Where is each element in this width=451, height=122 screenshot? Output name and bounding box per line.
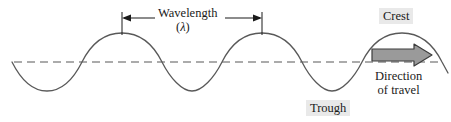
direction-of-travel-arrow-icon — [372, 44, 432, 66]
direction-label-line-2: of travel — [375, 83, 422, 97]
lambda-close-paren: ) — [186, 20, 190, 34]
direction-label-line-1: Direction — [375, 69, 422, 83]
wave-diagram: Wavelength (λ) Crest Trough Direction of… — [0, 0, 451, 122]
wavelength-arrowhead-right — [253, 14, 262, 21]
direction-of-travel-label: Direction of travel — [375, 69, 422, 98]
crest-label: Crest — [379, 8, 413, 24]
wavelength-label: Wavelength — [155, 6, 220, 20]
trough-label: Trough — [306, 100, 350, 116]
wavelength-arrowhead-left — [122, 14, 131, 21]
wavelength-symbol-label: (λ) — [176, 20, 190, 34]
